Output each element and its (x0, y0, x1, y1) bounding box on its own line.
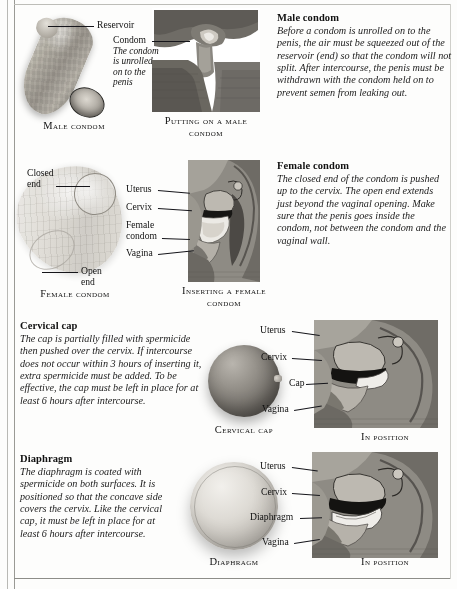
caption-diaphragm: Diaphragm (184, 556, 284, 568)
diaphragm-in-position-artwork (312, 452, 438, 558)
callout-uterus-cap: Uterus (260, 325, 286, 336)
page-frame-bottom (14, 578, 451, 579)
callout-uterus-female-condom: Uterus (126, 184, 152, 195)
section-body-male-condom: Before a condom is unrolled on to the pe… (277, 25, 453, 99)
cap-in-position-illustration (314, 320, 438, 428)
section-body-female-condom: The closed end of the condom is pushed u… (277, 173, 447, 247)
section-heading-female-condom: Female condom (277, 160, 449, 172)
callout-uterus-diaphragm: Uterus (260, 461, 286, 472)
caption-cap-in-position: In position (330, 431, 440, 443)
callout-diaphragm-part: Diaphragm (250, 512, 293, 523)
callout-cervix-female-condom: Cervix (126, 202, 152, 213)
open-end-leader-line (42, 272, 78, 273)
callout-open-end: Open end (81, 266, 111, 287)
diaphragm-in-position-illustration (312, 452, 438, 558)
female-condom-insertion-artwork (188, 160, 260, 282)
callout-cervix-diaphragm: Cervix (261, 487, 287, 498)
uterus-leader-line-1 (158, 190, 190, 194)
callout-cap: Cap (289, 378, 304, 389)
caption-female-condom: Female condom (12, 288, 138, 300)
section-heading-diaphragm: Diaphragm (20, 453, 190, 465)
callout-condom-note: The condom is unrolled on to the penis (113, 46, 163, 88)
page-frame-top (14, 4, 451, 5)
caption-male-condom: Male condom (14, 120, 134, 132)
section-body-cervical-cap: The cap is partially filled with spermic… (20, 333, 206, 407)
callout-condom: Condom (113, 35, 146, 46)
putting-on-condom-artwork (152, 8, 260, 112)
female-condom-insertion-illustration (188, 160, 260, 282)
caption-cervical-cap: Cervical cap (196, 424, 292, 436)
caption-diaphragm-in-position: In position (330, 556, 440, 568)
cervical-cap-rim-notch (274, 375, 282, 382)
caption-inserting-female-condom: Inserting a female condom (166, 285, 282, 308)
cervix-leader-line-1 (158, 208, 192, 211)
section-heading-male-condom: Male condom (277, 12, 449, 24)
callout-vagina-cap: Vagina (262, 404, 289, 415)
condom-leader-line (152, 41, 190, 42)
putting-on-condom-illustration (152, 8, 260, 112)
reservoir-leader-line (48, 26, 94, 27)
section-heading-cervical-cap: Cervical cap (20, 320, 200, 332)
spine-rule-outer (7, 0, 8, 589)
callout-vagina-female-condom: Vagina (126, 248, 153, 259)
closed-end-leader-line (56, 186, 90, 187)
caption-putting-on: Putting on a male condom (152, 115, 260, 138)
callout-vagina-diaphragm: Vagina (262, 537, 289, 548)
callout-reservoir: Reservoir (97, 20, 134, 31)
cap-in-position-artwork (314, 320, 438, 428)
page-canvas: Reservoir (0, 0, 457, 589)
callout-cervix-cap: Cervix (261, 352, 287, 363)
section-body-diaphragm: The diaphragm is coated with spermicide … (20, 466, 174, 540)
